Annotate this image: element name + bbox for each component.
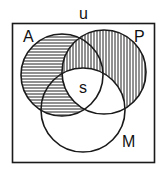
universe-label: u [79, 5, 88, 22]
set-m-label: M [122, 133, 135, 150]
set-a-label: A [23, 28, 34, 45]
set-p-label: P [134, 28, 145, 45]
venn-diagram: u A P M s [0, 0, 163, 174]
center-region-label: s [79, 79, 87, 96]
